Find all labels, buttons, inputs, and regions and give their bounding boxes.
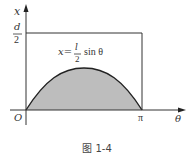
equation-numerator: l [75, 42, 78, 52]
figure-canvas [0, 0, 194, 157]
equation-lhs: x= [58, 46, 72, 57]
figure-caption: 图 1-4 [0, 140, 194, 155]
d-half-denominator: 2 [14, 34, 19, 45]
equation-rhs: sin θ [84, 46, 103, 57]
d-half-numerator: d [14, 21, 20, 32]
shaded-area [26, 68, 142, 110]
pi-label: π [138, 112, 143, 123]
y-axis-arrow-icon [24, 4, 29, 12]
origin-label: O [14, 112, 22, 123]
y-axis-label: x [14, 5, 20, 18]
x-axis-arrow-icon [178, 108, 186, 113]
equation-denominator: 2 [75, 54, 80, 64]
x-axis-label: θ [175, 113, 181, 124]
